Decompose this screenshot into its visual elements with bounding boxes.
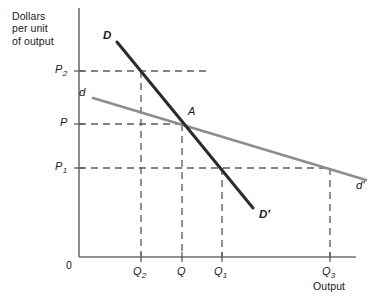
chart-plot-area — [0, 0, 384, 304]
y-tick-label-p1-subscript: 1 — [63, 166, 67, 175]
x-tick-label-q3: Q3 — [322, 265, 335, 278]
x-tick-label-q3-text: Q — [322, 265, 331, 277]
x-tick-label-q: Q — [177, 265, 186, 278]
curve-label-D-prime: D′ — [259, 208, 270, 222]
x-axis-caption: Output — [313, 280, 345, 292]
demand-curve-figure: Dollars per unit of output Output 0 P2 P… — [0, 0, 384, 304]
x-tick-label-q2-text: Q — [133, 265, 142, 277]
x-tick-label-q1-subscript: 1 — [223, 271, 227, 280]
curve-label-D: D — [103, 29, 111, 43]
y-tick-label-p1-text: P — [55, 160, 62, 172]
x-tick-label-q3-subscript: 3 — [331, 271, 335, 280]
y-axis-caption-line-2: per unit — [12, 22, 54, 34]
y-axis-caption: Dollars per unit of output — [12, 10, 54, 47]
curve-label-d: d — [79, 86, 85, 100]
x-tick-label-q1-text: Q — [214, 265, 223, 277]
x-tick-label-q1: Q1 — [214, 265, 227, 278]
origin-label: 0 — [66, 259, 72, 271]
x-tick-label-q2: Q2 — [133, 265, 146, 278]
y-tick-label-p: P — [60, 116, 67, 129]
y-tick-label-p2-text: P — [55, 63, 62, 75]
dashed-guides — [79, 71, 330, 257]
y-tick-label-p2: P2 — [55, 63, 67, 76]
demand-curve-D-large — [117, 42, 253, 208]
curve-label-d-prime: d′ — [356, 179, 365, 193]
y-axis-caption-line-1: Dollars — [12, 10, 54, 22]
y-tick-label-p2-subscript: 2 — [63, 69, 67, 78]
y-axis-caption-line-3: of output — [12, 35, 54, 47]
x-tick-label-q2-subscript: 2 — [142, 271, 146, 280]
y-tick-label-p-text: P — [60, 116, 67, 128]
point-label-A: A — [188, 105, 195, 118]
x-tick-label-q-text: Q — [177, 265, 186, 277]
y-tick-label-p1: P1 — [55, 160, 67, 173]
